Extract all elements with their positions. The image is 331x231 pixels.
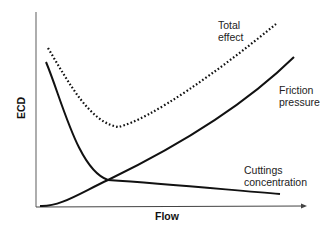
ecd-flow-chart: ECD Flow Total effect Friction pressure … — [0, 0, 331, 231]
friction-pressure-label-line1: Friction — [279, 84, 314, 96]
x-axis-label: Flow — [155, 210, 180, 222]
y-axis-label: ECD — [15, 96, 27, 119]
x-axis — [36, 206, 305, 207]
x-axis-arrow-icon — [301, 204, 307, 209]
total-effect-label-line1: Total — [218, 19, 240, 31]
cuttings-concentration-label-line1: Cuttings — [244, 164, 283, 176]
total-effect-label-line2: effect — [218, 31, 244, 43]
cuttings-concentration-label-line2: concentration — [244, 176, 307, 188]
friction-pressure-label-line2: pressure — [279, 96, 320, 108]
